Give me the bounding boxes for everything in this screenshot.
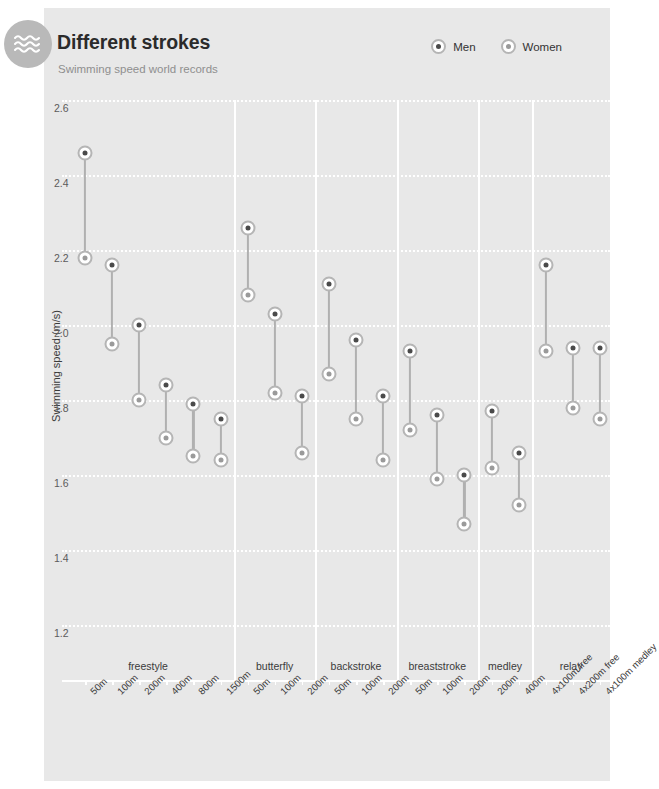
x-axis-tick <box>193 680 195 685</box>
data-point-men[interactable] <box>159 378 174 393</box>
x-axis-tick <box>492 680 494 685</box>
x-tick-label: 400m <box>169 672 194 697</box>
gridline-1.6 <box>62 475 610 477</box>
x-tick-label: 100m <box>278 672 303 697</box>
x-axis-tick <box>410 680 412 685</box>
y-tick-label: 1.6 <box>54 477 69 489</box>
group-label-freestyle: freestyle <box>128 660 168 672</box>
data-point-men[interactable] <box>105 258 120 273</box>
data-point-women[interactable] <box>403 423 418 438</box>
data-point-men[interactable] <box>484 404 499 419</box>
y-tick-label: 1.8 <box>54 402 69 414</box>
connector-line <box>84 153 86 258</box>
x-axis-tick <box>139 680 141 685</box>
data-point-women[interactable] <box>294 445 309 460</box>
data-point-men[interactable] <box>186 396 201 411</box>
x-axis-tick <box>329 680 331 685</box>
data-point-women[interactable] <box>565 400 580 415</box>
separator-relay <box>532 100 534 680</box>
data-point-men[interactable] <box>457 468 472 483</box>
connector-line <box>328 284 330 374</box>
x-axis-tick <box>600 680 602 685</box>
separator-backstroke <box>315 100 317 680</box>
x-tick-label: 50m <box>332 676 353 697</box>
x-axis-tick <box>221 680 223 685</box>
separator-butterfly <box>234 100 236 680</box>
data-point-men[interactable] <box>403 344 418 359</box>
data-point-men[interactable] <box>349 333 364 348</box>
data-point-men[interactable] <box>565 340 580 355</box>
y-tick-label: 2.0 <box>54 327 69 339</box>
data-point-women[interactable] <box>78 250 93 265</box>
connector-line <box>247 228 249 296</box>
group-label-backstroke: backstroke <box>331 660 382 672</box>
gridline-1.4 <box>62 550 610 552</box>
gridline-2.2 <box>62 250 610 252</box>
x-tick-label: 200m <box>142 672 167 697</box>
x-tick-label: 400m <box>522 672 547 697</box>
data-point-men[interactable] <box>538 258 553 273</box>
data-point-women[interactable] <box>511 498 526 513</box>
data-point-men[interactable] <box>321 276 336 291</box>
gridline-1.2 <box>62 625 610 627</box>
connector-line <box>111 265 113 344</box>
data-point-men[interactable] <box>294 389 309 404</box>
gridline-2.4 <box>62 175 610 177</box>
x-tick-label: 200m <box>467 672 492 697</box>
x-tick-label: 200m <box>386 672 411 697</box>
x-tick-label: 100m <box>359 672 384 697</box>
x-axis-tick <box>112 680 114 685</box>
x-tick-label: 200m <box>305 672 330 697</box>
data-point-men[interactable] <box>240 220 255 235</box>
x-axis-tick <box>383 680 385 685</box>
data-point-women[interactable] <box>538 344 553 359</box>
connector-line <box>382 396 384 460</box>
y-tick-label: 2.6 <box>54 102 69 114</box>
connector-line <box>436 415 438 479</box>
data-point-women[interactable] <box>430 471 445 486</box>
data-point-women[interactable] <box>159 430 174 445</box>
x-tick-label: 50m <box>88 676 109 697</box>
separator-breaststroke <box>397 100 399 680</box>
data-point-women[interactable] <box>105 336 120 351</box>
connector-line <box>409 351 411 430</box>
data-point-women[interactable] <box>592 411 607 426</box>
data-point-women[interactable] <box>376 453 391 468</box>
data-point-men[interactable] <box>376 389 391 404</box>
x-axis-tick <box>275 680 277 685</box>
gridline-2.6 <box>62 100 610 102</box>
x-tick-label: 50m <box>413 676 434 697</box>
data-point-women[interactable] <box>321 366 336 381</box>
data-point-men[interactable] <box>511 445 526 460</box>
data-point-men[interactable] <box>430 408 445 423</box>
x-axis-tick <box>573 680 575 685</box>
data-point-men[interactable] <box>78 145 93 160</box>
x-axis-tick <box>464 680 466 685</box>
x-axis-tick <box>546 680 548 685</box>
data-point-men[interactable] <box>213 411 228 426</box>
data-point-women[interactable] <box>349 411 364 426</box>
data-point-women[interactable] <box>213 453 228 468</box>
separator-medley <box>478 100 480 680</box>
x-axis-tick <box>166 680 168 685</box>
data-point-women[interactable] <box>240 288 255 303</box>
y-tick-label: 1.2 <box>54 627 69 639</box>
x-tick-label: 50m <box>251 676 272 697</box>
connector-line <box>138 325 140 400</box>
data-point-women[interactable] <box>484 460 499 475</box>
data-point-men[interactable] <box>132 318 147 333</box>
group-label-medley: medley <box>488 660 522 672</box>
data-point-women[interactable] <box>457 516 472 531</box>
connector-line <box>355 340 357 419</box>
data-point-men[interactable] <box>592 340 607 355</box>
y-tick-label: 2.2 <box>54 252 69 264</box>
data-point-women[interactable] <box>267 385 282 400</box>
data-point-women[interactable] <box>186 449 201 464</box>
x-tick-label: 800m <box>196 672 221 697</box>
data-point-women[interactable] <box>132 393 147 408</box>
connector-line <box>599 348 601 419</box>
data-point-men[interactable] <box>267 306 282 321</box>
x-axis-tick <box>519 680 521 685</box>
connector-line <box>274 314 276 393</box>
